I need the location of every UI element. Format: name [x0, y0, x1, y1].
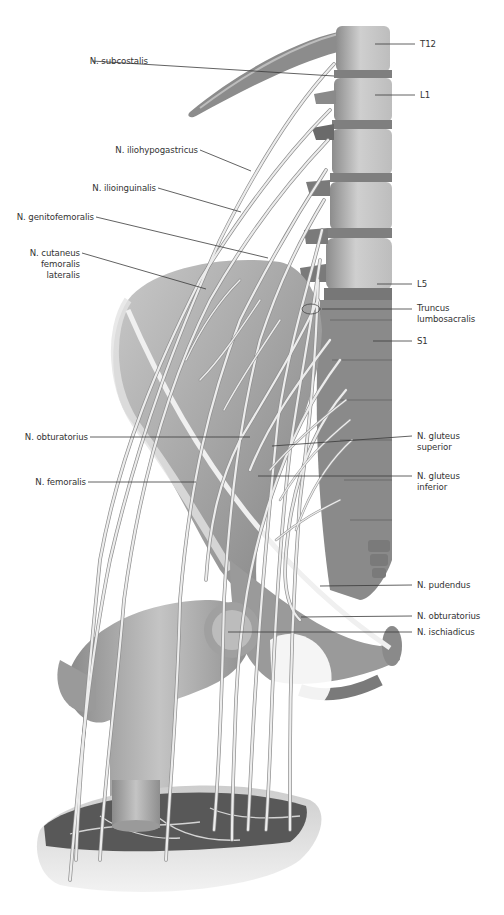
- label-n-ischiadicus: N. ischiadicus: [417, 627, 475, 638]
- label-vertebra-t12: T12: [420, 39, 436, 50]
- label-line-3: lateralis: [30, 270, 80, 281]
- label-line-2: femoralis: [30, 259, 80, 270]
- label-n-gluteus-inferior: N. gluteus inferior: [417, 471, 460, 493]
- label-line-2: superior: [417, 442, 460, 453]
- label-line-1: N. cutaneus: [30, 248, 80, 259]
- label-n-ilioinguinalis: N. ilioinguinalis: [92, 183, 156, 194]
- label-line-1: N. gluteus: [417, 431, 460, 442]
- label-n-iliohypogastricus: N. iliohypogastricus: [115, 145, 198, 156]
- label-n-genitofemoralis: N. genitofemoralis: [17, 212, 94, 223]
- label-line-2: lumbosacralis: [417, 314, 475, 325]
- label-n-gluteus-superior: N. gluteus superior: [417, 431, 460, 453]
- leader-iliohypogastricus: [200, 150, 251, 171]
- label-line-1: N. gluteus: [417, 471, 460, 482]
- label-n-obturatorius-left: N. obturatorius: [25, 432, 88, 443]
- label-n-femoralis: N. femoralis: [35, 477, 86, 488]
- label-vertebra-l1: L1: [420, 90, 430, 101]
- label-vertebra-s1: S1: [417, 336, 428, 347]
- leader-ilioinguinalis: [158, 188, 241, 212]
- label-n-obturatorius-right: N. obturatorius: [417, 611, 480, 622]
- label-n-pudendus: N. pudendus: [417, 580, 470, 591]
- anatomical-illustration: [0, 0, 504, 915]
- label-line-1: Truncus: [417, 303, 475, 314]
- label-line-2: inferior: [417, 482, 460, 493]
- leader-obturatorius_right: [301, 616, 412, 617]
- label-n-cutaneus-femoralis-lateralis: N. cutaneus femoralis lateralis: [30, 248, 80, 281]
- label-vertebra-l5: L5: [417, 279, 427, 290]
- leader-genitofemoralis: [96, 217, 268, 258]
- label-n-subcostalis: N. subcostalis: [90, 56, 148, 67]
- label-truncus-lumbosacralis: Truncus lumbosacralis: [417, 303, 475, 325]
